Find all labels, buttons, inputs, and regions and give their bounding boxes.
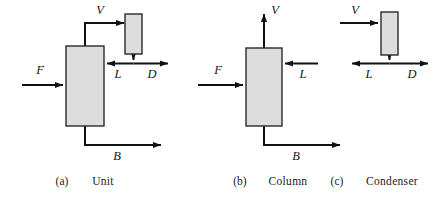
stream-arrow-V-a	[85, 23, 124, 46]
panel-c-caption-text: Condenser	[366, 175, 418, 187]
stream-label-V-c: V	[351, 3, 360, 17]
stream-label-L-c: L	[365, 67, 373, 81]
figure-container: V F L D B (a) Unit V F L B	[0, 0, 441, 198]
panel-b-column: V F L B (b) Column	[198, 3, 340, 188]
process-flow-diagram: V F L D B (a) Unit V F L B	[0, 0, 441, 198]
condenser-block-c	[381, 12, 398, 55]
stream-label-V-a: V	[96, 3, 105, 17]
stream-label-V-b: V	[271, 3, 280, 17]
column-block-a	[66, 46, 104, 126]
stream-label-D-c: D	[406, 67, 416, 81]
stream-label-B-b: B	[292, 149, 300, 163]
column-block-b	[246, 48, 282, 126]
stream-arrow-B-a	[85, 126, 161, 145]
panel-c-caption-tag: (c)	[331, 175, 344, 188]
stream-label-D-a: D	[146, 67, 156, 81]
stream-label-L-b: L	[299, 67, 307, 81]
stream-label-L-a: L	[114, 67, 122, 81]
stream-label-F-b: F	[213, 63, 222, 77]
panel-c-condenser: V L D (c) Condenser	[331, 3, 428, 188]
panel-a-caption-text: Unit	[92, 175, 114, 187]
panel-b-caption-tag: (b)	[233, 175, 247, 188]
panel-a-unit: V F L D B (a) Unit	[22, 3, 168, 188]
panel-a-caption-tag: (a)	[56, 175, 69, 188]
condenser-block-a	[125, 14, 142, 54]
stream-label-F-a: F	[35, 63, 44, 77]
panel-b-caption-text: Column	[269, 175, 308, 187]
stream-arrow-B-b	[264, 126, 340, 145]
stream-label-B-a: B	[113, 149, 121, 163]
